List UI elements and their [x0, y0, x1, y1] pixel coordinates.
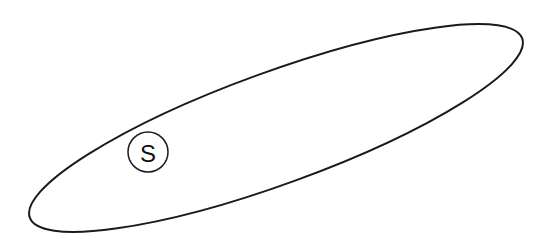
node-label: S — [140, 140, 156, 167]
node-s: S — [128, 132, 168, 172]
set-ellipse — [11, 0, 542, 233]
diagram-canvas: S — [0, 0, 551, 233]
